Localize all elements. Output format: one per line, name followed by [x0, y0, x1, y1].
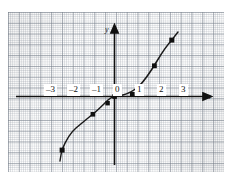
data-point-marker: [169, 38, 174, 43]
data-point-marker: [152, 63, 157, 68]
data-point-marker: [105, 101, 109, 105]
x-tick-label-minus-1: –1: [90, 84, 103, 96]
data-point-marker: [130, 92, 135, 97]
x-tick-label-2: 2: [157, 84, 166, 96]
graph-figure: –3 –2 –1 0 1 2 3 x y: [0, 0, 232, 185]
x-tick-label-1: 1: [135, 84, 144, 96]
data-point-marker: [60, 148, 65, 153]
x-tick-label-3: 3: [179, 84, 188, 96]
y-axis-label: y: [105, 26, 109, 34]
data-point-marker: [91, 112, 96, 117]
x-axis-label: x: [207, 93, 211, 101]
x-tick-label-minus-3: –3: [44, 84, 57, 96]
x-tick-label-minus-2: –2: [67, 84, 80, 96]
x-tick-label-0: 0: [113, 84, 122, 96]
